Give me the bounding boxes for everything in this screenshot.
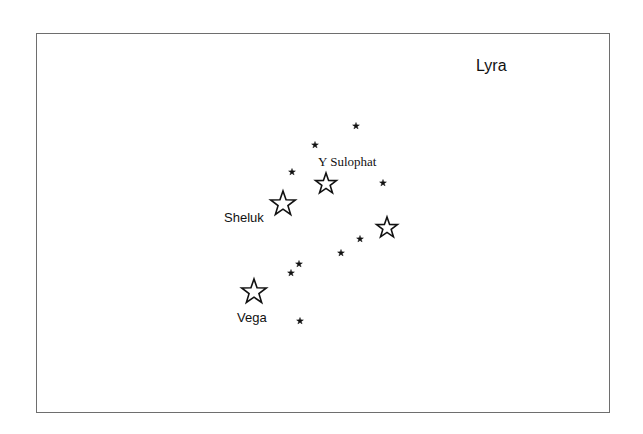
outline-star-icon — [242, 279, 267, 303]
star-map — [0, 0, 643, 434]
small-star-icon — [338, 249, 345, 256]
small-star-icon — [288, 269, 295, 276]
small-star-icon — [296, 260, 303, 267]
star-label-y-sulophat: Y Sulophat — [318, 155, 376, 168]
outline-star-icon — [271, 191, 296, 215]
constellation-title: Lyra — [476, 58, 507, 74]
small-star-icon — [312, 141, 319, 148]
star-label-sheluk: Sheluk — [224, 211, 264, 224]
small-star-icon — [380, 179, 387, 186]
outline-star-icon — [316, 173, 337, 193]
small-star-icon — [353, 122, 360, 129]
small-star-icon — [297, 317, 304, 324]
star-label-vega: Vega — [237, 311, 267, 324]
outline-star-icon — [377, 217, 398, 237]
small-star-icon — [357, 235, 364, 242]
small-star-icon — [289, 168, 296, 175]
